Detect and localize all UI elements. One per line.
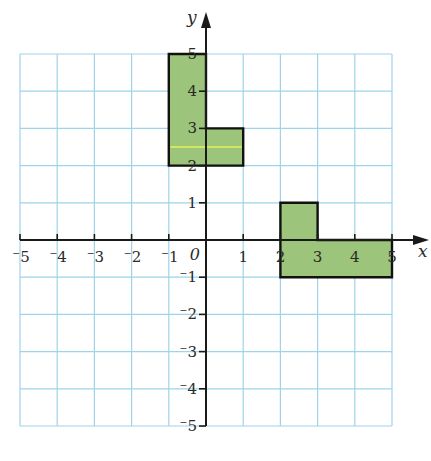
tick-labels: ⁻5⁻4⁻3⁻2⁻112345⁻5⁻4⁻3⁻2⁻1123450xy [12,7,428,435]
x-tick-label: 3 [313,248,323,266]
x-tick-label: 1 [238,248,248,266]
y-axis-label: y [186,7,197,27]
y-tick-label: ⁻4 [180,380,197,398]
coordinate-grid-diagram: ⁻5⁻4⁻3⁻2⁻112345⁻5⁻4⁻3⁻2⁻1123450xy [0,0,431,461]
x-tick-label: ⁻4 [49,248,66,266]
y-tick-label: 5 [187,45,197,63]
y-tick-label: 1 [187,194,197,212]
x-tick-label: ⁻5 [12,248,29,266]
x-tick-label: 4 [350,248,360,266]
y-tick-label: 4 [187,82,197,100]
y-tick-label: 2 [187,157,197,175]
x-axis-label: x [418,241,428,261]
x-tick-label: ⁻3 [87,248,104,266]
x-tick-label: 5 [387,248,397,266]
y-tick-label: 3 [187,119,197,137]
y-tick-label: ⁻2 [180,305,197,323]
x-tick-label: ⁻1 [161,248,178,266]
y-tick-label: ⁻5 [180,417,197,435]
x-tick-label: ⁻2 [124,248,141,266]
x-tick-label: 2 [276,248,286,266]
y-tick-label: ⁻1 [180,268,197,286]
y-tick-label: ⁻3 [180,343,197,361]
origin-label: 0 [190,245,200,264]
axes [20,12,429,426]
y-axis-arrow-icon [201,12,211,28]
